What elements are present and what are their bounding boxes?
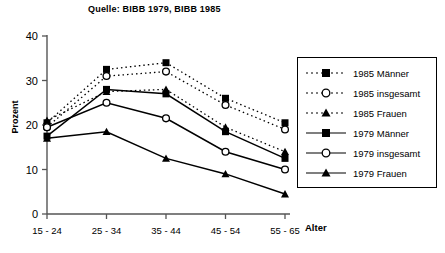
- circle-marker: [103, 73, 110, 80]
- legend-symbol-circle-dotted: [305, 86, 347, 100]
- circle-marker: [44, 124, 51, 131]
- series-line-1979-m-nner: [47, 89, 285, 158]
- x-tick-label: 55 - 65: [270, 225, 300, 236]
- circle-marker: [222, 102, 229, 109]
- x-tick-label: 45 - 54: [211, 225, 241, 236]
- square-marker: [222, 128, 229, 135]
- x-tick-label: 25 - 34: [92, 225, 122, 236]
- y-tick-label: 20: [26, 119, 38, 131]
- legend-label: 1985 insgesamt: [353, 88, 420, 99]
- square-marker: [103, 66, 110, 73]
- chart-root: Quelle: BIBB 1979, BIBB 1985 Prozent 010…: [0, 0, 445, 253]
- legend-item: 1979 Frauen: [298, 163, 436, 183]
- legend-label: 1979 insgesamt: [353, 148, 420, 159]
- legend-symbol-square-solid: [305, 126, 347, 140]
- circle-marker: [103, 99, 110, 106]
- y-tick-label: 0: [32, 208, 38, 220]
- square-marker: [282, 119, 289, 126]
- legend-label: 1979 Männer: [353, 128, 409, 139]
- x-axis-label: Alter: [305, 222, 327, 233]
- legend-item: 1979 Männer: [298, 123, 436, 143]
- legend-label: 1985 Frauen: [353, 108, 407, 119]
- legend-item: 1985 Männer: [298, 63, 436, 83]
- y-tick-label: 10: [26, 164, 38, 176]
- square-marker: [163, 59, 170, 66]
- legend-symbol-circle-solid: [305, 146, 347, 160]
- square-marker: [282, 155, 289, 162]
- circle-marker: [282, 126, 289, 133]
- circle-marker: [163, 115, 170, 122]
- circle-marker: [163, 68, 170, 75]
- triangle-marker: [162, 154, 170, 161]
- legend-item: 1979 insgesamt: [298, 143, 436, 163]
- square-marker: [222, 95, 229, 102]
- chart-svg: 01020304015 - 2425 - 3435 - 4445 - 5455 …: [0, 0, 300, 253]
- legend-label: 1985 Männer: [353, 68, 409, 79]
- legend-symbol-triangle-dotted: [305, 106, 347, 120]
- x-tick-label: 15 - 24: [32, 225, 62, 236]
- legend-label: 1979 Frauen: [353, 168, 407, 179]
- legend-symbol-square-dotted: [305, 66, 347, 80]
- series-line-1979-frauen: [47, 132, 285, 194]
- legend-item: 1985 insgesamt: [298, 83, 436, 103]
- triangle-marker: [281, 148, 289, 155]
- chart-legend: 1985 Männer 1985 insgesamt 1985 Frauen 1…: [297, 57, 437, 188]
- square-marker: [163, 90, 170, 97]
- square-marker: [103, 86, 110, 93]
- y-tick-label: 40: [26, 30, 38, 42]
- y-tick-label: 30: [26, 75, 38, 87]
- legend-item: 1985 Frauen: [298, 103, 436, 123]
- legend-symbol-triangle-solid: [305, 166, 347, 180]
- circle-marker: [282, 166, 289, 173]
- x-tick-label: 35 - 44: [151, 225, 181, 236]
- y-axis-label: Prozent: [10, 90, 20, 144]
- plot-area: Prozent 01020304015 - 2425 - 3435 - 4445…: [0, 0, 300, 253]
- circle-marker: [222, 148, 229, 155]
